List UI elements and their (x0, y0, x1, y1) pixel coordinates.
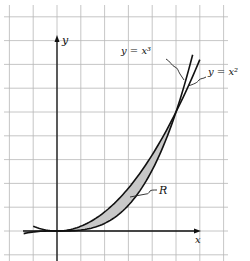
area-between-curves-diagram: y x y = x³ y = x² R (0, 0, 250, 261)
x-axis-label: x (195, 234, 201, 245)
y-axis-label: y (61, 34, 69, 47)
region-label: R (158, 184, 167, 197)
curve-label-x-squared: y = x² (207, 66, 238, 77)
curve-y-equals-x-cubed (24, 55, 193, 234)
curve-label-x-cubed: y = x³ (120, 45, 151, 56)
region-r-shading (57, 112, 176, 231)
grid (4, 5, 228, 261)
y-axis-arrowhead (55, 35, 60, 42)
leader-line-x-cubed (166, 59, 184, 80)
